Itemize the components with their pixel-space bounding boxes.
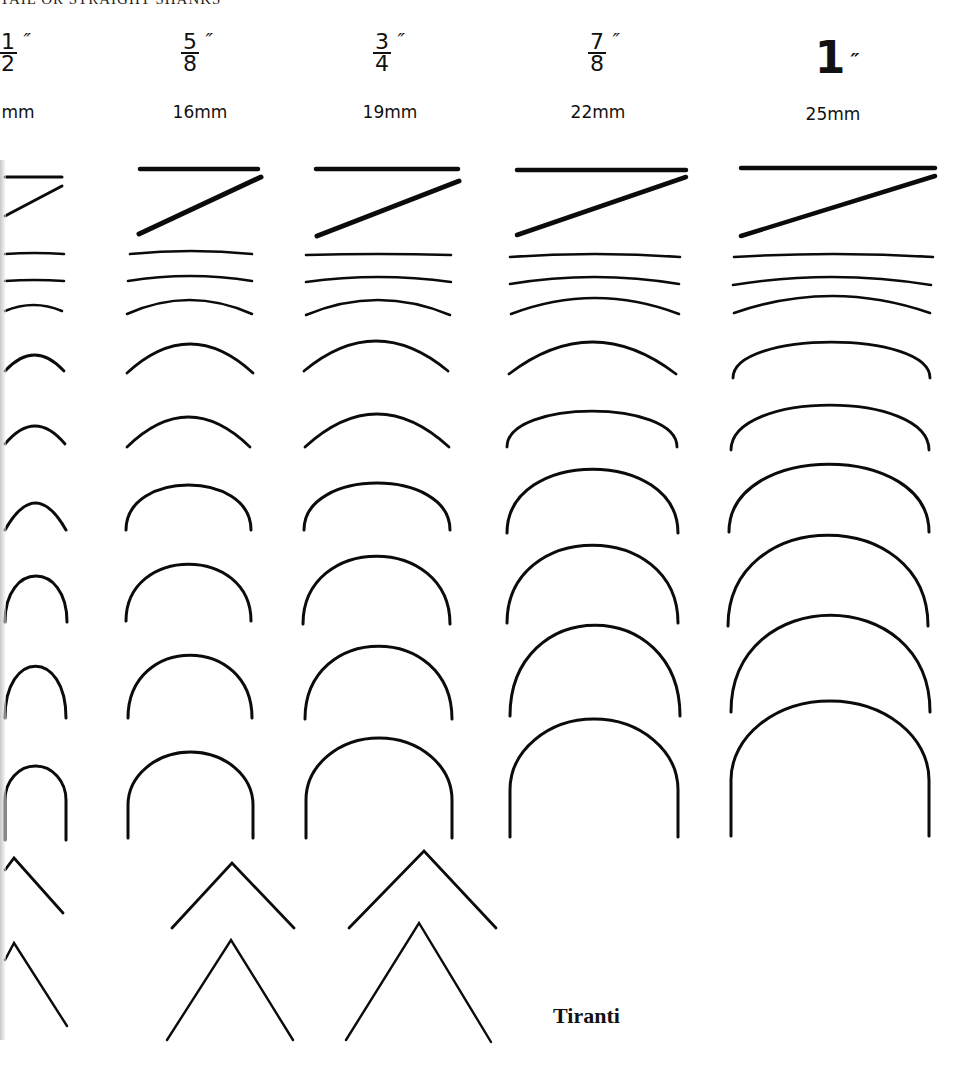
- scan-shadow: [0, 160, 6, 1040]
- gouge-sweep-profile: [5, 666, 66, 718]
- gouge-sweep-profile: [731, 405, 929, 450]
- gouge-sweep-profile: [305, 646, 452, 719]
- gouge-sweep-profile: [127, 300, 252, 314]
- gouge-sweep-profile: [128, 276, 252, 281]
- caption-tiranti: Tiranti: [553, 1003, 620, 1029]
- skew-chisel-profile: [5, 186, 62, 216]
- gouge-sweep-profile: [5, 576, 67, 622]
- skew-chisel-profile: [139, 177, 261, 234]
- gouge-sweep-profile: [510, 277, 679, 284]
- gouge-sweep-profile: [733, 277, 931, 285]
- u-gouge-profile: [510, 719, 678, 837]
- gouge-profile-chart: [0, 0, 961, 1068]
- gouge-sweep-profile: [507, 545, 678, 623]
- gouge-sweep-profile: [303, 556, 450, 624]
- gouge-sweep-profile: [306, 254, 451, 255]
- skew-chisel-profile: [317, 181, 459, 236]
- gouge-sweep-profile: [729, 464, 929, 532]
- v-tool-profile: [5, 858, 63, 913]
- gouge-sweep-profile: [510, 625, 680, 716]
- v-tool-profile: [172, 863, 294, 928]
- skew-chisel-profile: [741, 176, 935, 236]
- skew-chisel-profile: [517, 177, 686, 235]
- gouge-sweep-profile: [128, 655, 252, 718]
- gouge-sweep-profile: [5, 253, 64, 254]
- gouge-sweep-profile: [507, 469, 678, 533]
- gouge-sweep-profile: [733, 342, 930, 378]
- gouge-sweep-profile: [130, 251, 252, 254]
- gouge-sweep-profile: [5, 305, 62, 311]
- v-tool-profile: [346, 923, 491, 1042]
- u-gouge-profile: [731, 701, 929, 836]
- gouge-sweep-profile: [126, 485, 251, 530]
- gouge-sweep-profile: [306, 277, 451, 282]
- gouge-sweep-profile: [510, 254, 680, 257]
- gouge-sweep-profile: [511, 298, 679, 314]
- gouge-sweep-profile: [5, 503, 66, 530]
- gouge-sweep-profile: [306, 300, 450, 315]
- gouge-sweep-profile: [734, 296, 930, 313]
- gouge-sweep-profile: [731, 615, 930, 712]
- u-gouge-profile: [5, 766, 66, 840]
- gouge-sweep-profile: [126, 564, 251, 621]
- gouge-sweep-profile: [5, 426, 65, 444]
- gouge-sweep-profile: [127, 344, 253, 373]
- gouge-sweep-profile: [734, 254, 933, 257]
- v-tool-profile: [167, 940, 293, 1040]
- gouge-sweep-profile: [127, 417, 250, 447]
- gouge-sweep-profile: [304, 483, 450, 530]
- gouge-sweep-profile: [509, 342, 676, 374]
- v-tool-profile: [349, 851, 496, 928]
- v-tool-profile: [5, 943, 67, 1026]
- gouge-sweep-profile: [305, 414, 449, 447]
- u-gouge-profile: [306, 738, 452, 838]
- u-gouge-profile: [128, 752, 253, 838]
- gouge-sweep-profile: [507, 411, 677, 447]
- gouge-sweep-profile: [728, 535, 928, 626]
- gouge-sweep-profile: [304, 341, 448, 371]
- gouge-sweep-profile: [5, 280, 64, 281]
- gouge-sweep-profile: [5, 355, 64, 371]
